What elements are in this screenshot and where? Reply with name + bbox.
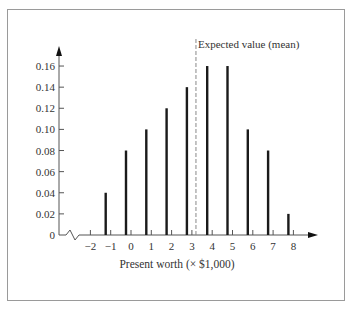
bar (125, 151, 127, 235)
y-tick-label: 0.10 (36, 123, 56, 135)
x-tick-label: 6 (250, 240, 256, 252)
bar (105, 193, 107, 235)
y-tick-label: 0.04 (36, 187, 56, 199)
x-axis: −2−1012345678 (59, 230, 318, 252)
bar (226, 66, 228, 235)
y-tick-label: 0.14 (36, 81, 56, 93)
mean-label: Expected value (mean) (198, 38, 300, 51)
bar (165, 108, 167, 235)
y-tick-label: 0.08 (36, 145, 56, 157)
bar-chart: 00.020.040.060.080.100.120.140.16 −2−101… (0, 0, 363, 313)
bar (206, 66, 208, 235)
bar (145, 129, 147, 235)
x-tick-label: 0 (128, 240, 134, 252)
bar (186, 87, 188, 235)
x-tick-label: 8 (291, 240, 297, 252)
x-tick-label: 7 (270, 240, 276, 252)
x-tick-label: −1 (105, 240, 117, 252)
bars (105, 66, 290, 235)
y-axis: 00.020.040.060.080.100.120.140.16 (36, 46, 64, 241)
x-axis-arrow-icon (308, 232, 318, 238)
x-tick-label: −2 (85, 240, 97, 252)
y-axis-arrow-icon (56, 46, 62, 56)
y-tick-label: 0.06 (36, 166, 56, 178)
x-tick-label: 1 (149, 240, 155, 252)
x-axis-title: Present worth (× $1,000) (119, 258, 234, 271)
bar (287, 214, 289, 235)
x-tick-label: 2 (169, 240, 175, 252)
x-tick-label: 5 (230, 240, 236, 252)
x-tick-label: 3 (189, 240, 195, 252)
bar (247, 129, 249, 235)
x-tick-label: 4 (209, 240, 215, 252)
y-tick-label: 0.12 (36, 102, 55, 114)
bar (267, 151, 269, 235)
y-tick-label: 0 (50, 229, 56, 241)
y-tick-label: 0.02 (36, 208, 55, 220)
y-tick-label: 0.16 (36, 60, 56, 72)
axis-break-icon (59, 230, 312, 240)
